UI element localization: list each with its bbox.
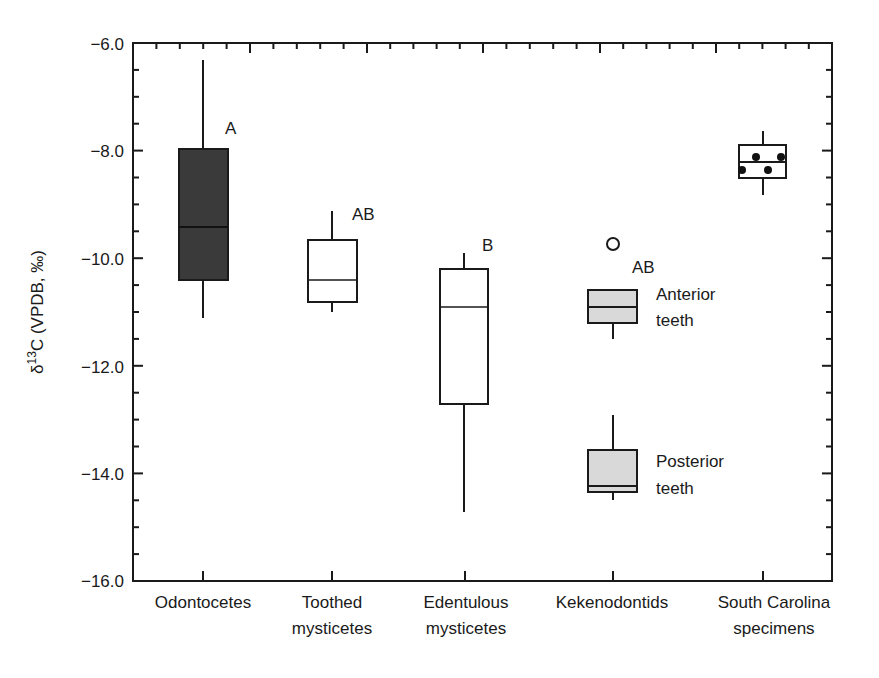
data-point xyxy=(738,166,746,174)
y-axis-tick-labels: −6.0 −8.0 −10.0 −12.0 −14.0 −16.0 xyxy=(81,35,124,591)
box-south-carolina-specimens xyxy=(738,131,786,195)
category-label-edentulous-mysticetes: mysticetes xyxy=(426,619,506,638)
y-label-delta: δ xyxy=(28,364,47,373)
category-label-kekenodontids: Kekenodontids xyxy=(556,593,668,612)
category-label-toothed-mysticetes: Toothed xyxy=(302,593,363,612)
y-label-superscript: 13 xyxy=(25,351,39,365)
category-label-toothed-mysticetes: mysticetes xyxy=(292,619,372,638)
box-kekenodontids-anterior xyxy=(588,238,637,339)
significance-letter: AB xyxy=(632,258,655,277)
box-edentulous-mysticetes xyxy=(440,253,488,512)
data-point xyxy=(752,153,760,161)
box xyxy=(440,269,488,404)
box-kekenodontids-posterior xyxy=(588,415,637,500)
box-toothed-mysticetes xyxy=(308,211,357,312)
y-label-text: C (VPDB, ‰) xyxy=(28,250,47,351)
y-tick-label: −10.0 xyxy=(81,250,124,269)
posterior-teeth-label: teeth xyxy=(656,479,694,498)
y-tick-label: −12.0 xyxy=(81,358,124,377)
box-plot-chart: −6.0 −8.0 −10.0 −12.0 −14.0 −16.0 δ13C (… xyxy=(0,0,879,678)
y-tick-label: −6.0 xyxy=(90,35,124,54)
box xyxy=(179,149,228,280)
category-label-south-carolina-specimens: specimens xyxy=(733,619,814,638)
anterior-teeth-label: Anterior xyxy=(656,285,716,304)
significance-letter: A xyxy=(225,119,237,138)
category-label-odontocetes: Odontocetes xyxy=(155,593,251,612)
significance-letter: B xyxy=(482,236,493,255)
data-point xyxy=(764,166,772,174)
y-tick-label: −14.0 xyxy=(81,465,124,484)
y-tick-label: −8.0 xyxy=(90,142,124,161)
x-axis-category-labels: Odontocetes Toothed mysticetes Edentulou… xyxy=(155,593,831,638)
outlier-point xyxy=(607,238,619,250)
significance-letter: AB xyxy=(352,205,375,224)
category-label-south-carolina-specimens: South Carolina xyxy=(718,593,831,612)
data-point xyxy=(777,153,785,161)
box-odontocetes xyxy=(179,60,228,318)
y-tick-label: −16.0 xyxy=(81,572,124,591)
category-label-edentulous-mysticetes: Edentulous xyxy=(423,593,508,612)
anterior-teeth-label: teeth xyxy=(656,311,694,330)
posterior-teeth-label: Posterior xyxy=(656,452,724,471)
box xyxy=(308,240,357,302)
y-axis-label: δ13C (VPDB, ‰) xyxy=(25,250,47,374)
